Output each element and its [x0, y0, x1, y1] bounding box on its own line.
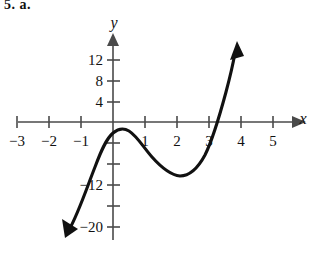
x-axis-label: x	[298, 110, 306, 127]
cubic-curve	[69, 53, 235, 230]
y-axis-arrowhead-icon	[107, 33, 119, 46]
x-tick-label-2: 2	[173, 133, 181, 149]
curve-start-arrowhead-icon	[62, 219, 78, 238]
curve-end-arrowhead-icon	[230, 41, 244, 60]
x-tick-label--2: −2	[41, 133, 57, 149]
x-tick-label--3: −3	[9, 133, 25, 149]
x-tick-label-4: 4	[237, 133, 245, 149]
graph-figure: 5. a. −3 −2 −1 1 2 3 4 5	[0, 0, 314, 256]
y-tick-label-12: 12	[88, 52, 103, 68]
y-tick-label--20: −20	[80, 219, 103, 235]
y-tick-label-8: 8	[96, 73, 104, 89]
y-axis-label: y	[108, 14, 118, 32]
coordinate-plane: −3 −2 −1 1 2 3 4 5 12 8 4 −12 −20 x y	[0, 0, 314, 256]
x-tick-label-5: 5	[269, 133, 277, 149]
y-tick-label-4: 4	[96, 94, 104, 110]
x-tick-label--1: −1	[73, 133, 89, 149]
problem-label: 5. a.	[4, 0, 31, 13]
